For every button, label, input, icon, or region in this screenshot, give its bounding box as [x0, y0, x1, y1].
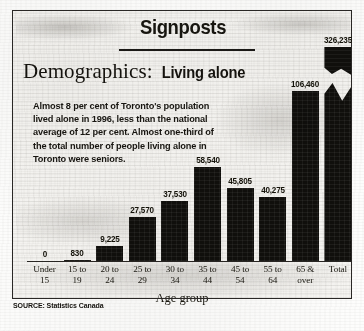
bar: [194, 167, 221, 261]
bar-broken-axis-cap: [324, 47, 351, 75]
bar-value-label: 106,460: [291, 79, 319, 89]
infographic-frame: Signposts Demographics:Living alone Almo…: [12, 10, 352, 298]
x-tick-label: Under15: [30, 264, 60, 285]
bar-value-label: 45,805: [228, 176, 252, 186]
bar: [161, 201, 188, 261]
bar-value-label: 9,225: [100, 234, 119, 244]
newspaper-clipping: Signposts Demographics:Living alone Almo…: [0, 0, 364, 331]
bar-value-label: 58,540: [196, 155, 220, 165]
bar-value-label: 40,275: [261, 185, 285, 195]
masthead-title: Signposts: [33, 15, 332, 39]
x-tick-label: Total: [323, 264, 353, 275]
bar: [324, 83, 351, 261]
bar-value-label: 830: [71, 248, 84, 258]
bar-value-label: 27,570: [130, 205, 154, 215]
source-credit: SOURCE: Statistics Canada: [13, 301, 103, 310]
masthead: Signposts: [13, 11, 353, 57]
x-axis-tick-labels: Under1515 to1920 to2425 to2930 to3435 to…: [27, 264, 351, 288]
x-tick-label: 35 to44: [193, 264, 223, 285]
x-tick-label: 30 to34: [160, 264, 190, 285]
bar: [292, 91, 319, 261]
bar-value-label: 0: [42, 249, 46, 259]
x-tick-label: 45 to54: [225, 264, 255, 285]
bar-chart-plot: 08309,22527,57037,53058,54045,80540,2751…: [27, 69, 351, 261]
x-tick-label: 25 to29: [127, 264, 157, 285]
masthead-rule: [119, 49, 255, 51]
x-axis-baseline: [27, 261, 351, 262]
x-tick-label: 20 to24: [95, 264, 125, 285]
bar-value-label: 37,530: [163, 189, 187, 199]
x-tick-label: 65 &over: [290, 264, 320, 285]
bar-value-label: 326,235: [324, 35, 352, 45]
bar: [227, 188, 254, 261]
bar: [129, 217, 156, 261]
x-tick-label: 15 to19: [62, 264, 92, 285]
source-rule: [12, 298, 352, 299]
x-tick-label: 55 to64: [258, 264, 288, 285]
bar: [259, 197, 286, 261]
bar: [96, 246, 123, 261]
